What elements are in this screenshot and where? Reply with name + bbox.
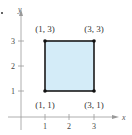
vertex-1-1 [43,89,47,93]
vertex-3-1 [92,89,96,93]
x-tick-label-2: 2 [67,122,71,131]
y-axis-label: y [17,5,22,14]
vertex-1-3 [43,39,47,43]
y-tick-label-3: 3 [11,37,15,46]
y-tick-label-2: 2 [11,62,15,71]
x-tick-label-3: 3 [92,122,96,131]
point-label-3-3: (3, 3) [84,24,104,34]
coordinate-plot: 1 2 3 1 2 3 x y (1, 3) (3, 3) (1, 1) (3,… [0,0,132,135]
vertex-3-3 [92,39,96,43]
x-axis-label: x [121,113,126,122]
x-tick-label-1: 1 [43,122,47,131]
y-tick-label-1: 1 [11,87,15,96]
point-label-1-3: (1, 3) [35,24,55,34]
square-region [45,41,94,91]
point-label-3-1: (3, 1) [84,100,104,110]
point-label-1-1: (1, 1) [35,100,55,110]
problem-dot [1,12,3,14]
x-axis-arrow-icon [112,115,119,119]
